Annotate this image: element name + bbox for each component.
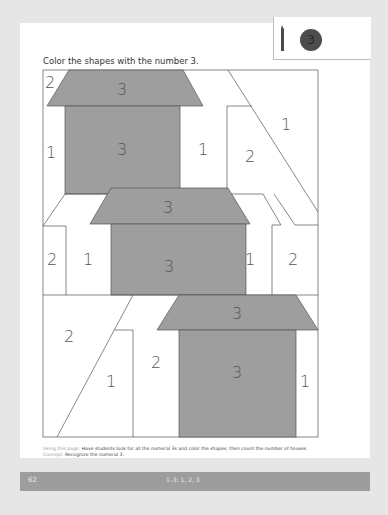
label-3: 3	[164, 257, 174, 276]
label-1: 1	[83, 250, 93, 269]
label-3: 3	[163, 198, 173, 217]
footer-bar: 62 1–3: 1, 2, 3	[20, 472, 370, 491]
label-2: 2	[151, 353, 161, 372]
label-1: 1	[46, 143, 56, 162]
concept-label: Concept:	[43, 452, 64, 457]
label-1: 1	[106, 372, 116, 391]
using-label: Using this page:	[43, 446, 80, 451]
label-3: 3	[232, 304, 242, 323]
label-1: 1	[198, 140, 208, 159]
label-2: 2	[45, 73, 55, 92]
label-2: 2	[64, 327, 74, 346]
label-1: 1	[245, 250, 255, 269]
label-3: 3	[117, 80, 127, 99]
label-3: 3	[117, 140, 127, 159]
label-3: 3	[232, 363, 242, 382]
label-1: 1	[281, 115, 291, 134]
standard-code: 1–3: 1, 2, 3	[166, 476, 200, 483]
concept-text: Recognize the numeral 3.	[65, 452, 124, 457]
label-2: 2	[288, 250, 298, 269]
label-1: 1	[300, 372, 310, 391]
color-by-number-puzzle: 2 3 1 1 3 1 2 3 2 1 3 1 2 3 2 1 2 3 1	[0, 0, 388, 515]
house2-body[interactable]	[111, 224, 246, 295]
house3-body[interactable]	[179, 330, 296, 437]
label-2: 2	[47, 250, 57, 269]
using-text: Have students look for all the numeral 3…	[82, 446, 308, 451]
teacher-notes: Using this page: Have students look for …	[43, 446, 343, 458]
page-number: 62	[28, 476, 37, 484]
label-2: 2	[245, 147, 255, 166]
